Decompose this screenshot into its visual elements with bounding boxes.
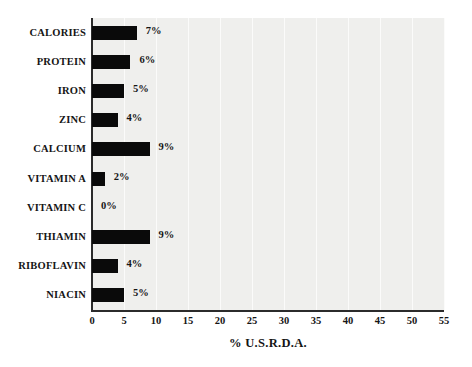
- bar-row: 9%: [92, 142, 444, 156]
- x-axis-title: % U.S.R.D.A.: [92, 336, 444, 351]
- bar: [92, 55, 130, 69]
- bar-value-label: 7%: [146, 24, 162, 38]
- category-label: ZINC: [59, 113, 86, 127]
- bar-row: 4%: [92, 113, 444, 127]
- bar-row: 0%: [92, 201, 444, 215]
- bar: [92, 230, 150, 244]
- category-axis-labels: CALORIESPROTEINIRONZINCCALCIUMVITAMIN AV…: [0, 18, 86, 310]
- bar: [92, 113, 118, 127]
- x-tick-label: 45: [375, 313, 386, 329]
- bar-value-label: 9%: [159, 228, 175, 242]
- bar-row: 9%: [92, 230, 444, 244]
- bar-value-label: 9%: [159, 140, 175, 154]
- category-label: CALCIUM: [33, 142, 86, 156]
- bar-value-label: 2%: [114, 170, 130, 184]
- bar: [92, 142, 150, 156]
- bar-value-label: 0%: [101, 199, 117, 213]
- bar-value-label: 6%: [139, 53, 155, 67]
- gridline: [444, 18, 445, 310]
- x-tick-label: 55: [439, 313, 450, 329]
- category-label: VITAMIN A: [28, 172, 86, 186]
- bar: [92, 172, 105, 186]
- bar-row: 2%: [92, 172, 444, 186]
- bar-value-label: 5%: [133, 82, 149, 96]
- x-tick-label: 35: [311, 313, 322, 329]
- bar-row: 4%: [92, 259, 444, 273]
- x-axis-line: [91, 310, 444, 312]
- bar-series: 7%6%5%4%9%2%0%9%4%5%: [92, 18, 444, 310]
- bar-chart: CALORIESPROTEINIRONZINCCALCIUMVITAMIN AV…: [0, 0, 472, 367]
- x-tick-label: 10: [151, 313, 162, 329]
- bar-row: 7%: [92, 26, 444, 40]
- bar-row: 5%: [92, 84, 444, 98]
- x-tick-label: 50: [407, 313, 418, 329]
- x-tick-label: 30: [279, 313, 290, 329]
- bar: [92, 84, 124, 98]
- category-label: RIBOFLAVIN: [18, 259, 86, 273]
- category-label: CALORIES: [30, 26, 86, 40]
- bar-value-label: 5%: [133, 286, 149, 300]
- bar: [92, 26, 137, 40]
- category-label: THIAMIN: [36, 230, 86, 244]
- x-tick-label: 25: [247, 313, 258, 329]
- category-label: PROTEIN: [37, 55, 86, 69]
- bar-row: 5%: [92, 288, 444, 302]
- bar-value-label: 4%: [127, 257, 143, 271]
- category-label: IRON: [58, 84, 86, 98]
- category-label: VITAMIN C: [27, 201, 86, 215]
- x-tick-label: 0: [89, 313, 94, 329]
- bar-value-label: 4%: [127, 111, 143, 125]
- x-tick-label: 15: [183, 313, 194, 329]
- bar-row: 6%: [92, 55, 444, 69]
- bar: [92, 259, 118, 273]
- bar: [92, 288, 124, 302]
- x-axis-tick-labels: 0510152025303540455055: [92, 313, 444, 329]
- x-tick-label: 20: [215, 313, 226, 329]
- category-label: NIACIN: [46, 288, 86, 302]
- x-tick-label: 40: [343, 313, 354, 329]
- x-tick-label: 5: [121, 313, 126, 329]
